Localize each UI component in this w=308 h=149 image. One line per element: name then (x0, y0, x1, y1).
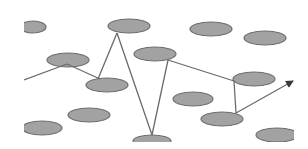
node-ellipse-n12 (133, 135, 171, 147)
network-diagram (0, 0, 308, 149)
node-ellipse-n1 (20, 21, 46, 33)
node-ellipse-n8 (233, 72, 275, 86)
node-ellipse-n14 (256, 128, 298, 142)
node-ellipse-n13 (201, 112, 243, 126)
node-ellipse-n11 (22, 121, 62, 135)
node-ellipse-n4 (134, 47, 176, 61)
node-ellipse-n5 (190, 22, 232, 36)
path-edge-3 (98, 33, 117, 79)
node-ellipse-n6 (244, 31, 286, 45)
node-ellipse-n10 (68, 108, 110, 122)
nodes-layer (20, 19, 298, 147)
path-edge-5 (152, 60, 168, 135)
path-edge-6 (168, 60, 234, 81)
node-ellipse-n3 (108, 19, 150, 33)
path-edge-7 (234, 81, 236, 113)
node-ellipse-n9 (173, 92, 213, 106)
path-edge-2 (67, 64, 100, 79)
node-ellipse-n7 (86, 78, 128, 92)
path-edge-1 (24, 64, 67, 80)
